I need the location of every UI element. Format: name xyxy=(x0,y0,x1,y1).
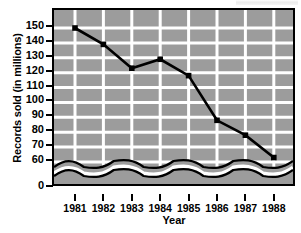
x-tick-mark xyxy=(216,194,218,201)
horizontal-gridlines xyxy=(54,28,293,162)
x-tick-mark xyxy=(159,194,161,201)
y-tick-label-140: 140 xyxy=(12,35,44,46)
scan-artifact xyxy=(236,0,298,5)
x-tick-mark xyxy=(102,194,104,201)
x-axis-title: Year xyxy=(52,214,296,226)
y-tick-label-90: 90 xyxy=(12,109,44,120)
y-tick-label-60: 60 xyxy=(12,154,44,165)
x-tick-mark xyxy=(188,194,190,201)
vertical-gridlines xyxy=(75,10,274,184)
y-tick-label-100: 100 xyxy=(12,94,44,105)
line-chart-figure: Records sold (in millions) 0607080901001… xyxy=(0,0,301,233)
x-tick-mark xyxy=(244,194,246,201)
axis-break-mark xyxy=(54,160,293,184)
y-tick-label-80: 80 xyxy=(12,124,44,135)
x-axis-tick-labels: 19811982198319841985198619871988 xyxy=(52,194,295,208)
y-tick-label-120: 120 xyxy=(12,65,44,76)
plot-canvas xyxy=(54,10,293,184)
y-tick-label-0: 0 xyxy=(12,180,44,191)
y-tick-label-130: 130 xyxy=(12,50,44,61)
x-tick-mark xyxy=(131,194,133,201)
y-tick-label-150: 150 xyxy=(12,20,44,31)
x-tick-mark xyxy=(74,194,76,201)
y-tick-label-110: 110 xyxy=(12,80,44,91)
x-tick-mark xyxy=(273,194,275,201)
x-tick-label-1988: 1988 xyxy=(257,202,291,214)
plot-area xyxy=(52,8,295,186)
y-tick-label-70: 70 xyxy=(12,139,44,150)
y-axis-tick-labels: 060708090100110120130140150 xyxy=(8,0,44,233)
